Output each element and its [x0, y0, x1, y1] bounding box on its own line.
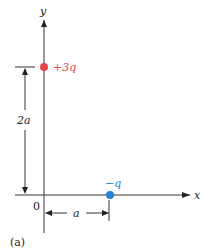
dimension-label-horizontal: a — [73, 207, 80, 220]
dimension-arrow-left-icon — [45, 210, 52, 216]
y-axis-arrowhead-icon — [41, 20, 47, 27]
charge-positive-label: +3q — [53, 61, 76, 74]
charge-positive-icon — [40, 63, 48, 71]
dimension-arrow-right-icon — [102, 210, 109, 216]
y-axis-label: y — [39, 5, 47, 18]
figure-caption: (a) — [10, 236, 25, 249]
charge-negative-icon — [106, 191, 114, 199]
x-axis-label: x — [194, 189, 201, 202]
dimension-label-vertical: 2a — [16, 114, 31, 127]
charge-negative-label: −q — [105, 177, 121, 190]
charge-diagram: y x 0 +3q −q 2a a (a) — [0, 0, 206, 251]
x-axis-arrowhead-icon — [182, 192, 190, 198]
dimension-arrow-up-icon — [22, 68, 28, 75]
dimension-arrow-down-icon — [22, 187, 28, 194]
origin-label: 0 — [33, 200, 40, 213]
